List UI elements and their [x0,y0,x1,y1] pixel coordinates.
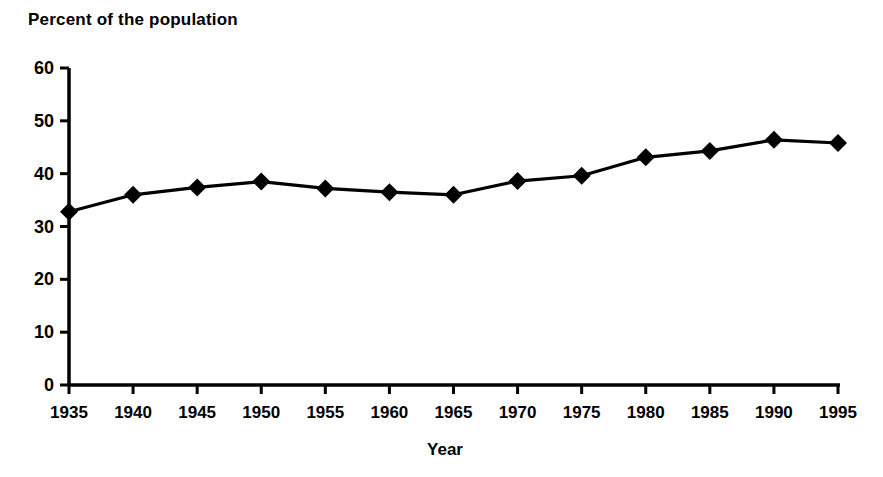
data-point-marker [765,131,783,149]
data-point-marker [637,148,655,166]
x-axis-tick-label: 1965 [419,403,489,423]
x-axis-tick-label: 1945 [162,403,232,423]
data-point-marker [829,134,847,152]
y-axis-tick-label: 0 [8,375,54,396]
y-axis-tick-label: 30 [8,216,54,237]
x-axis-title: Year [385,440,505,460]
x-axis-tick-label: 1970 [483,403,553,423]
x-axis-tick-label: 1995 [803,403,873,423]
data-point-marker [701,142,719,160]
y-axis-tick-label: 60 [8,58,54,79]
axis-lines [69,68,840,385]
data-point-marker [316,179,334,197]
data-point-markers [60,131,847,221]
data-point-marker [445,186,463,204]
data-point-marker [380,183,398,201]
x-axis-tick-label: 1985 [675,403,745,423]
x-axis-tick-label: 1940 [98,403,168,423]
x-axis-tick-label: 1950 [226,403,296,423]
data-point-marker [252,173,270,191]
x-axis-tick-label: 1990 [739,403,809,423]
data-point-marker [573,167,591,185]
x-axis-tick-label: 1980 [611,403,681,423]
x-axis-tick-label: 1955 [290,403,360,423]
x-axis-tick-label: 1935 [34,403,104,423]
y-axis-tick-label: 40 [8,163,54,184]
y-axis-tick-label: 50 [8,110,54,131]
data-point-marker [60,203,78,221]
data-point-marker [509,172,527,190]
x-axis-tick-label: 1975 [547,403,617,423]
data-point-marker [124,186,142,204]
y-axis-tick-label: 10 [8,322,54,343]
y-axis-tick-label: 20 [8,269,54,290]
data-point-marker [188,178,206,196]
line-chart: Percent of the population 0102030405060 … [0,0,883,477]
x-axis-tick-label: 1960 [354,403,424,423]
